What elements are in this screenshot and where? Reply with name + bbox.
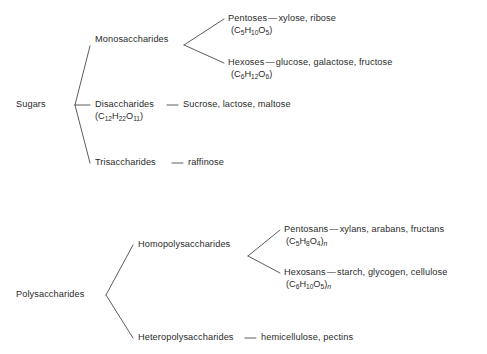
node-trisaccharides-examples: raffinose [188,157,224,167]
node-heteropolysaccharides-examples-wrap: hemicellulose, pectins [261,332,353,344]
dash-hexoses: — [264,57,275,67]
formula-disaccharides: (C12H22O11) [95,111,143,123]
node-pentoses-label: Pentoses [228,13,267,23]
node-heteropolysaccharides-examples: hemicellulose, pectins [261,332,353,342]
node-sugars: Sugars [16,99,46,111]
node-polysaccharides-label: Polysaccharides [16,289,84,299]
formula-hexosans-h-sub: 10 [306,283,313,290]
formula-hexosans-open: (C [286,279,296,289]
node-hexoses-examples: glucose, galactose, fructose [276,57,393,67]
node-homopolysaccharides-label: Homopolysaccharides [138,239,230,249]
connector-sugars-trisaccharides [75,105,90,163]
connector-mono-pentoses [184,19,224,45]
node-hexoses-label: Hexoses [228,57,264,67]
node-heteropolysaccharides: Heteropolysaccharides [138,332,234,344]
formula-disaccharides-h: H [112,111,119,121]
sugar-classification-diagram-page: Sugars Monosaccharides Pentoses—xylose, … [0,0,487,354]
node-pentoses: Pentoses—xylose, ribose [228,13,336,25]
dash-pentosans: — [328,224,339,234]
connector-lines [0,0,487,354]
formula-pentosans-h-sub: 8 [306,240,310,247]
node-disaccharides-examples-wrap: Sucrose, lactose, maltose [183,99,291,111]
node-hexosans-label: Hexosans [284,267,326,277]
formula-pentosans-o: O [310,236,317,246]
formula-hexoses-close: ) [269,69,272,79]
node-sugars-label: Sugars [16,99,46,109]
formula-hexosans-o-sub: 5 [321,283,325,290]
formula-pentoses-h-sub: 10 [251,29,258,36]
formula-hexoses: (C6H12O6) [231,69,272,81]
node-disaccharides-examples: Sucrose, lactose, maltose [183,99,291,109]
node-pentosans: Pentosans—xylans, arabans, fructans [284,224,444,236]
formula-pentoses-o: O [258,25,265,35]
formula-pentoses: (C5H10O5) [231,25,272,37]
formula-pentosans-c-sub: 5 [296,240,300,247]
formula-hexoses-h-sub: 12 [251,73,258,80]
formula-hexoses-o-sub: 6 [266,73,270,80]
formula-pentosans: (C5H8O4)n [286,236,327,248]
formula-hexosans: (C6H10O5)n [286,279,331,291]
formula-disaccharides-c-sub: 12 [105,115,112,122]
connector-poly-heteropolysaccharides [106,295,133,338]
node-trisaccharides: Trisaccharides [95,157,156,169]
formula-hexosans-n-sub: n [327,283,331,290]
node-disaccharides-label: Disaccharides [95,99,154,109]
node-pentosans-examples: xylans, arabans, fructans [340,224,445,234]
formula-hexoses-c-sub: 6 [241,73,245,80]
node-disaccharides: Disaccharides [95,99,154,111]
formula-disaccharides-close: ) [140,111,143,121]
node-trisaccharides-label: Trisaccharides [95,157,156,167]
node-homopolysaccharides: Homopolysaccharides [138,239,230,251]
formula-hexosans-c-sub: 6 [296,283,300,290]
formula-pentoses-open: (C [231,25,241,35]
node-monosaccharides: Monosaccharides [95,34,169,46]
connector-homo-hexosans [248,256,280,273]
node-trisaccharides-examples-wrap: raffinose [188,157,224,169]
connector-sugars-monosaccharides [75,46,90,105]
connector-poly-homopolysaccharides [106,245,133,295]
node-pentosans-label: Pentosans [284,224,328,234]
formula-pentosans-open: (C [286,236,296,246]
node-hexosans: Hexosans—starch, glycogen, cellulose [284,267,447,279]
formula-hexosans-o: O [313,279,320,289]
node-hexosans-examples: starch, glycogen, cellulose [337,267,447,277]
node-heteropolysaccharides-label: Heteropolysaccharides [138,332,234,342]
node-pentoses-examples: xylose, ribose [278,13,336,23]
formula-pentoses-o-sub: 5 [266,29,270,36]
formula-pentoses-close: ) [269,25,272,35]
dash-pentoses: — [267,13,278,23]
node-monosaccharides-label: Monosaccharides [95,34,169,44]
formula-disaccharides-h-sub: 22 [119,115,126,122]
node-polysaccharides: Polysaccharides [16,289,84,301]
formula-disaccharides-o-sub: 11 [133,115,140,122]
node-hexoses: Hexoses—glucose, galactose, fructose [228,57,392,69]
formula-hexoses-o: O [258,69,265,79]
connector-mono-hexoses [184,45,224,63]
dash-hexosans: — [326,267,337,277]
formula-pentosans-o-sub: 4 [317,240,321,247]
formula-disaccharides-open: (C [95,111,105,121]
connector-homo-pentosans [248,230,280,256]
formula-pentoses-c-sub: 5 [241,29,245,36]
formula-hexoses-open: (C [231,69,241,79]
formula-pentosans-n-sub: n [324,240,328,247]
